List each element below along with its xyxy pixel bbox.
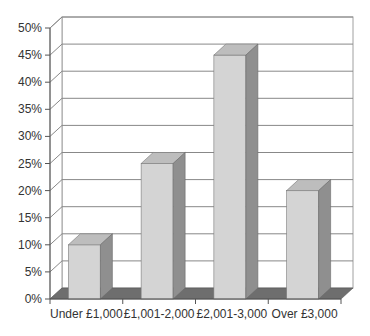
y-tick-label: 40% bbox=[18, 75, 42, 89]
x-axis: Under £1,000£1,001-2,000£2,001-3,000Over… bbox=[50, 299, 341, 321]
bar-side bbox=[100, 234, 112, 299]
bar bbox=[68, 234, 112, 299]
y-tick-label: 35% bbox=[18, 102, 42, 116]
bar-side bbox=[246, 44, 258, 299]
bar bbox=[214, 44, 258, 299]
bar-front bbox=[68, 245, 100, 299]
bar-side bbox=[319, 180, 331, 299]
y-axis: 0%5%10%15%20%25%30%35%40%45%50% bbox=[18, 21, 50, 306]
bar bbox=[287, 180, 331, 299]
y-tick-label: 30% bbox=[18, 129, 42, 143]
y-tick-label: 0% bbox=[25, 292, 43, 306]
x-category-label: Over £3,000 bbox=[272, 307, 338, 321]
bar-side bbox=[173, 153, 185, 300]
x-category-label: £2,001-3,000 bbox=[197, 307, 268, 321]
y-tick-label: 15% bbox=[18, 211, 42, 225]
bar-front bbox=[287, 191, 319, 299]
x-category-label: £1,001-2,000 bbox=[124, 307, 195, 321]
y-tick-label: 50% bbox=[18, 21, 42, 35]
bar-chart: 0%5%10%15%20%25%30%35%40%45%50% Under £1… bbox=[0, 0, 370, 336]
bar-front bbox=[141, 164, 173, 300]
y-tick-label: 45% bbox=[18, 48, 42, 62]
y-tick-label: 5% bbox=[25, 265, 43, 279]
bar-front bbox=[214, 55, 246, 299]
y-tick-label: 25% bbox=[18, 157, 42, 171]
y-tick-label: 10% bbox=[18, 238, 42, 252]
x-category-label: Under £1,000 bbox=[50, 307, 123, 321]
bar bbox=[141, 153, 185, 300]
y-tick-label: 20% bbox=[18, 184, 42, 198]
